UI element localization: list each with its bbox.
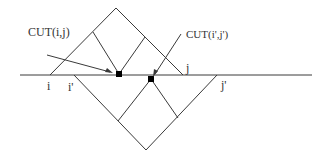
i-prime-label: i' — [68, 80, 74, 94]
upper-triangle — [50, 8, 183, 75]
cut-ij-arrowhead — [105, 68, 113, 73]
cut-ij-dot — [116, 71, 122, 77]
cut-i2j2-arrow-line — [155, 34, 181, 74]
lower-inner-right — [151, 79, 178, 118]
cut-ij-arrow-line — [47, 55, 110, 72]
cut-i2j2-dot — [148, 76, 154, 82]
lower-inner-left — [118, 79, 151, 121]
cut-i2j2-label: CUT(i',j') — [186, 28, 228, 41]
cut-diagram: CUT(i,j) CUT(i',j') i j i' j' — [0, 0, 328, 162]
j-label: j — [185, 61, 189, 75]
cut-ij-label: CUT(i,j) — [28, 25, 70, 39]
i-label: i — [47, 79, 51, 93]
upper-inner-right — [119, 37, 145, 74]
j-prime-label: j' — [220, 78, 227, 92]
upper-inner-left — [93, 32, 119, 74]
